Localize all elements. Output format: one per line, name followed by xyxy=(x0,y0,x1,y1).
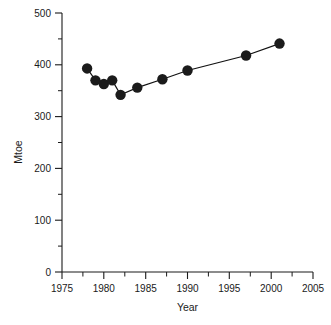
y-tick-label-400: 400 xyxy=(34,59,51,70)
data-point xyxy=(107,75,117,85)
series-markers-mtoe xyxy=(82,38,285,100)
y-tick-label-0: 0 xyxy=(45,267,51,278)
chart-figure: 0 100 200 300 400 500 1975 xyxy=(0,0,331,325)
y-axis-title: Mtoe xyxy=(12,140,24,164)
x-tick-label-2000: 2000 xyxy=(260,283,283,294)
data-point xyxy=(82,63,92,73)
y-tick-label-500: 500 xyxy=(34,8,51,19)
data-point xyxy=(157,74,167,84)
y-tick-label-300: 300 xyxy=(34,111,51,122)
y-axis-minor-ticks xyxy=(58,39,62,246)
data-point xyxy=(132,82,142,92)
x-tick-label-1995: 1995 xyxy=(218,283,241,294)
x-tick-label-1980: 1980 xyxy=(93,283,116,294)
data-point xyxy=(115,90,125,100)
x-axis-major-ticks xyxy=(62,272,313,279)
series-group xyxy=(82,38,285,100)
line-chart-svg: 0 100 200 300 400 500 1975 xyxy=(0,0,331,325)
x-axis-title: Year xyxy=(177,301,199,313)
data-point xyxy=(241,50,251,60)
y-tick-label-200: 200 xyxy=(34,163,51,174)
x-tick-label-2005: 2005 xyxy=(302,283,325,294)
data-point xyxy=(182,65,192,75)
x-tick-label-1985: 1985 xyxy=(135,283,158,294)
y-axis-tick-labels: 0 100 200 300 400 500 xyxy=(34,8,51,278)
data-point xyxy=(274,38,284,48)
x-tick-label-1975: 1975 xyxy=(51,283,74,294)
x-tick-label-1990: 1990 xyxy=(176,283,199,294)
x-axis-tick-labels: 1975 1980 1985 1990 1995 2000 2005 xyxy=(51,283,325,294)
y-tick-label-100: 100 xyxy=(34,215,51,226)
